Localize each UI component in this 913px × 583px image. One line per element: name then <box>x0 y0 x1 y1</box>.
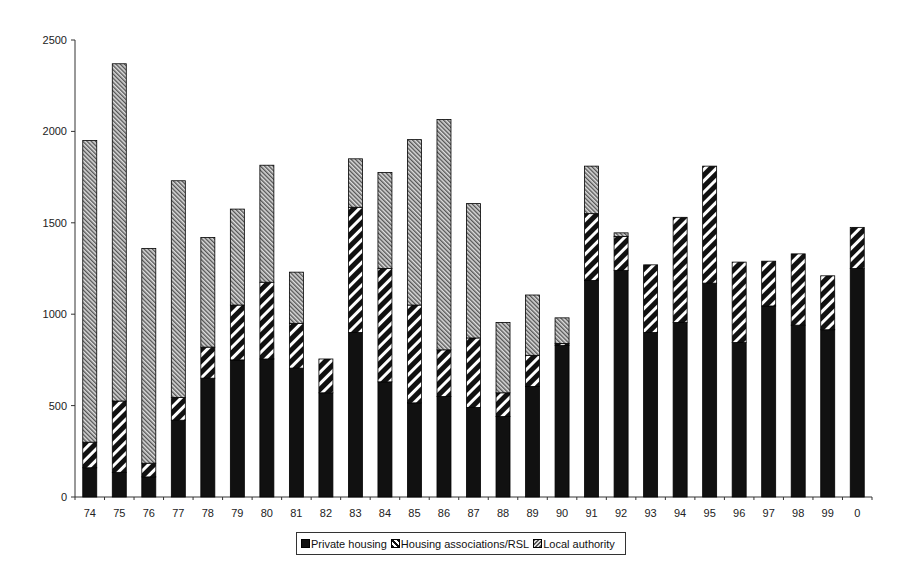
housing-associations-segment <box>83 442 97 468</box>
x-tick-label: 93 <box>644 507 656 519</box>
housing-associations-segment <box>467 338 481 407</box>
local-authority-segment <box>437 120 451 350</box>
y-tick-label: 0 <box>61 491 67 503</box>
private-housing-segment <box>467 407 481 497</box>
x-tick-label: 95 <box>704 507 716 519</box>
private-housing-segment <box>585 280 599 497</box>
private-housing-segment <box>673 322 687 497</box>
x-tick-label: 82 <box>320 507 332 519</box>
y-tick-label: 500 <box>49 400 67 412</box>
housing-associations-segment <box>407 305 421 403</box>
housing-associations-segment <box>171 397 185 420</box>
private-housing-segment <box>644 332 658 497</box>
housing-associations-segment <box>614 237 628 271</box>
housing-associations-segment <box>112 401 126 472</box>
private-housing-segment <box>555 345 569 497</box>
housing-associations-segment <box>821 276 835 330</box>
housing-associations-segment <box>496 393 510 417</box>
local-authority-segment <box>142 248 156 463</box>
legend-label: Housing associations/RSL <box>401 538 529 550</box>
private-housing-segment <box>319 393 333 497</box>
housing-associations-segment <box>762 261 776 306</box>
local-authority-segment <box>467 204 481 338</box>
local-authority-segment <box>348 159 362 207</box>
axes: 0500100015002000250074757677787980818283… <box>43 34 872 519</box>
legend-item-private-housing: Private housing <box>301 538 387 550</box>
x-tick-label: 91 <box>585 507 597 519</box>
local-authority-segment <box>407 140 421 305</box>
x-tick-label: 97 <box>763 507 775 519</box>
private-housing-segment <box>171 420 185 497</box>
local-authority-segment <box>585 166 599 214</box>
x-tick-label: 83 <box>349 507 361 519</box>
local-authority-segment <box>496 322 510 392</box>
x-tick-label: 0 <box>854 507 860 519</box>
private-housing-segment <box>378 382 392 497</box>
housing-associations-segment <box>142 463 156 477</box>
housing-associations-segment <box>526 355 540 386</box>
x-tick-label: 96 <box>733 507 745 519</box>
private-housing-segment <box>201 378 215 497</box>
x-tick-label: 84 <box>379 507 391 519</box>
local-authority-segment <box>378 173 392 269</box>
private-housing-segment <box>83 468 97 497</box>
local-authority-segment <box>260 165 274 282</box>
housing-associations-segment <box>378 269 392 382</box>
x-tick-label: 79 <box>231 507 243 519</box>
local-authority-segment <box>526 295 540 355</box>
private-housing-swatch-icon <box>301 539 310 548</box>
housing-associations-swatch-icon <box>391 539 400 548</box>
housing-associations-segment <box>319 359 333 393</box>
private-housing-segment <box>614 270 628 497</box>
legend-item-local-authority: Local authority <box>533 538 615 550</box>
private-housing-segment <box>791 325 805 497</box>
local-authority-segment <box>614 233 628 237</box>
legend-item-housing-associations: Housing associations/RSL <box>391 538 529 550</box>
x-tick-label: 85 <box>408 507 420 519</box>
y-tick-label: 1000 <box>43 308 67 320</box>
private-housing-segment <box>407 403 421 497</box>
local-authority-segment <box>555 318 569 344</box>
x-tick-label: 86 <box>438 507 450 519</box>
x-tick-label: 88 <box>497 507 509 519</box>
y-tick-label: 2500 <box>43 34 67 46</box>
private-housing-segment <box>821 330 835 497</box>
x-tick-label: 81 <box>290 507 302 519</box>
housing-associations-segment <box>644 265 658 333</box>
private-housing-segment <box>762 306 776 497</box>
x-tick-label: 87 <box>467 507 479 519</box>
legend-label: Private housing <box>311 538 387 550</box>
x-tick-label: 99 <box>822 507 834 519</box>
x-tick-label: 94 <box>674 507 686 519</box>
housing-associations-segment <box>348 207 362 332</box>
housing-associations-segment <box>260 282 274 359</box>
x-tick-label: 89 <box>526 507 538 519</box>
private-housing-segment <box>526 386 540 497</box>
x-tick-label: 80 <box>261 507 273 519</box>
legend-label: Local authority <box>543 538 615 550</box>
private-housing-segment <box>732 343 746 497</box>
housing-associations-segment <box>201 347 215 378</box>
housing-associations-segment <box>791 254 805 325</box>
local-authority-segment <box>201 237 215 347</box>
y-tick-label: 1500 <box>43 217 67 229</box>
x-tick-label: 92 <box>615 507 627 519</box>
housing-associations-segment <box>585 214 599 281</box>
private-housing-segment <box>850 269 864 498</box>
x-tick-label: 77 <box>172 507 184 519</box>
private-housing-segment <box>260 359 274 497</box>
x-tick-label: 74 <box>84 507 96 519</box>
x-tick-label: 98 <box>792 507 804 519</box>
y-tick-label: 2000 <box>43 125 67 137</box>
chart-legend: Private housing Housing associations/RSL… <box>296 532 626 555</box>
private-housing-segment <box>142 477 156 497</box>
stacked-bar-chart: 0500100015002000250074757677787980818283… <box>0 0 913 583</box>
local-authority-segment <box>171 181 185 398</box>
private-housing-segment <box>348 332 362 497</box>
housing-associations-segment <box>437 350 451 397</box>
private-housing-segment <box>230 360 244 497</box>
local-authority-segment <box>289 272 303 323</box>
private-housing-segment <box>289 368 303 497</box>
x-tick-label: 75 <box>113 507 125 519</box>
housing-associations-segment <box>703 166 717 283</box>
